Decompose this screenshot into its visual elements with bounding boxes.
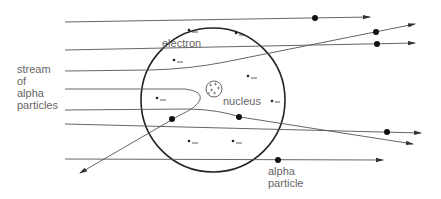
stream-label-line1: stream	[17, 63, 51, 75]
electron-icon	[173, 59, 183, 62]
nucleus-label: nucleus	[223, 95, 261, 107]
electron-label: electron	[162, 37, 201, 49]
stream-label-line3: alpha	[17, 87, 45, 99]
alpha-particle-label-line2: particle	[268, 177, 303, 189]
electron-icon	[188, 140, 198, 143]
alpha-particle-dot	[312, 15, 318, 21]
electron-icon	[232, 140, 242, 143]
stream-label-line4: particles	[17, 99, 58, 111]
trajectory-through-lower	[65, 124, 421, 133]
electron-icon	[156, 97, 166, 100]
alpha-particle-dot	[373, 29, 379, 35]
alpha-particle-dot	[169, 116, 175, 122]
trajectory-through-upper	[65, 43, 415, 50]
electron-icon	[247, 75, 257, 78]
nucleus	[206, 81, 222, 97]
alpha-particle-dot	[374, 41, 380, 47]
trajectory-back-scattered	[65, 89, 200, 173]
trajectory-deflected-up	[65, 24, 415, 71]
alpha-particle-dot	[236, 114, 242, 120]
electron-icon	[271, 100, 280, 103]
nucleus-circle	[206, 81, 222, 97]
stream-label-line2: of	[17, 75, 27, 87]
alpha-particle-dot	[275, 157, 281, 163]
trajectory-top-straight	[65, 17, 370, 22]
trajectory-bottom-straight	[65, 159, 383, 160]
rutherford-diagram: electron nucleus stream of alpha particl…	[0, 0, 441, 199]
alpha-trajectories	[65, 15, 421, 173]
alpha-particle-label-line1: alpha	[268, 165, 296, 177]
alpha-particle-dot	[384, 129, 390, 135]
